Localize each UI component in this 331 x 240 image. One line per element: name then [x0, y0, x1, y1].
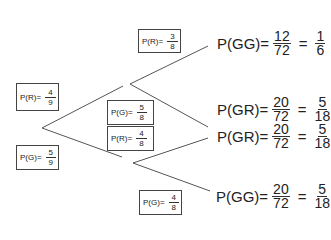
prob-label: P(G)=: [143, 198, 165, 207]
fraction: 38: [167, 32, 177, 51]
fraction: 2072: [272, 96, 290, 123]
first-branch-green-box: P(G)= 59: [16, 145, 59, 170]
outcome-2: P(GR)= 2072 = 518: [217, 96, 331, 123]
outcome-4: P(GG)= 2072 = 518: [216, 183, 331, 210]
simplified-fraction: 518: [314, 183, 330, 210]
prob-label: P(G)=: [111, 108, 133, 117]
second-branch-box-3: P(R)= 48: [107, 126, 154, 151]
first-branch-red-box: P(R)= 49: [16, 83, 59, 111]
outcome-label: P(GR)=: [217, 101, 268, 118]
fraction: 48: [136, 129, 146, 148]
outcome-label: P(GG)=: [217, 35, 269, 52]
second-branch-box-1: P(R)= 38: [138, 29, 181, 53]
prob-label: P(R)=: [111, 134, 132, 143]
prob-label: P(R)=: [20, 93, 41, 102]
prob-label: P(R)=: [142, 37, 163, 46]
fraction: 59: [46, 148, 56, 167]
fraction: 1272: [273, 30, 291, 57]
second-branch-box-4: P(G)= 48: [139, 190, 182, 215]
fraction: 2072: [272, 183, 290, 210]
outcome-1: P(GG)= 1272 = 16: [217, 30, 329, 57]
outcome-label: P(GR)=: [217, 128, 268, 145]
branch-lower-down: [133, 163, 210, 191]
prob-label: P(G)=: [20, 153, 42, 162]
outcome-3: P(GR)= 2072 = 518: [217, 123, 331, 150]
fraction: 2072: [272, 123, 290, 150]
fraction: 49: [45, 88, 55, 107]
fraction: 58: [137, 103, 147, 122]
outcome-label: P(GG)=: [216, 188, 268, 205]
simplified-fraction: 518: [315, 96, 331, 123]
second-branch-box-2: P(G)= 58: [107, 100, 154, 125]
simplified-fraction: 16: [315, 30, 325, 57]
fraction: 48: [169, 193, 179, 212]
simplified-fraction: 518: [315, 123, 331, 150]
